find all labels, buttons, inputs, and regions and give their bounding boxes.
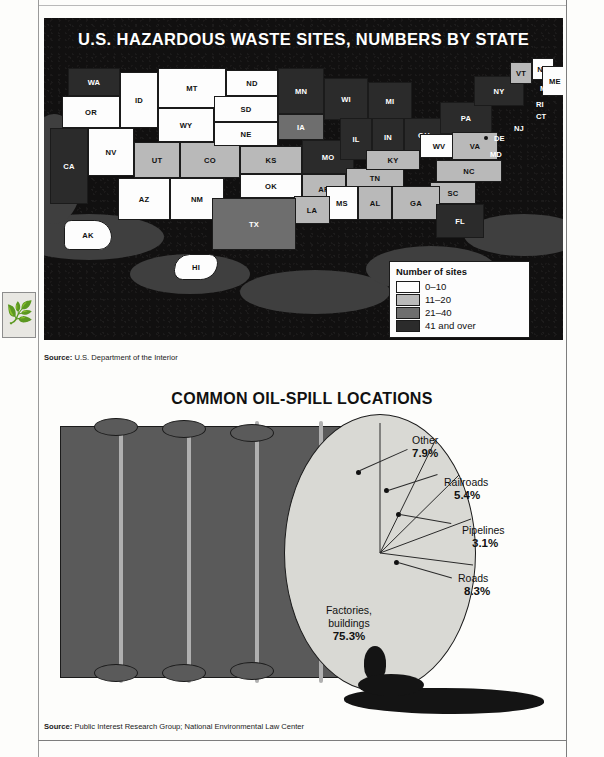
page-rule-right: [566, 0, 567, 757]
state-LA[interactable]: LA: [294, 196, 330, 224]
callout-other: Other 7.9%: [412, 434, 438, 460]
state-label-CT: CT: [536, 112, 546, 121]
drum-bulge: [162, 664, 206, 682]
state-PA[interactable]: PA: [440, 102, 492, 134]
state-label: NC: [437, 167, 501, 176]
state-label: VT: [511, 69, 531, 78]
legend-item-11-20[interactable]: 11–20: [396, 293, 524, 306]
state-NC[interactable]: NC: [436, 160, 502, 182]
legend-swatch: [396, 281, 420, 293]
callout-factories-name-2: buildings: [306, 617, 392, 630]
callout-pipelines-pct: 3.1%: [472, 537, 505, 550]
state-NV[interactable]: NV: [88, 128, 134, 176]
state-TX[interactable]: TX: [212, 198, 296, 250]
state-VT[interactable]: VT: [510, 62, 532, 84]
state-label-MD: MD: [490, 150, 502, 159]
state-label: MS: [327, 199, 357, 208]
state-SD[interactable]: SD: [214, 96, 278, 122]
map-legend: Number of sites 0–10 11–20 21–40 41 and …: [389, 261, 530, 338]
page-canvas: 🌿 U.S. HAZARDOUS WASTE SITES, NUMBERS BY…: [0, 0, 604, 757]
state-dot-RI[interactable]: [526, 102, 530, 106]
state-dot-CT[interactable]: [516, 108, 520, 112]
state-label: IN: [373, 133, 403, 142]
state-label: GA: [393, 199, 439, 208]
state-label: LA: [295, 206, 329, 215]
state-OK[interactable]: OK: [240, 174, 302, 198]
state-ND[interactable]: ND: [226, 70, 278, 96]
state-WY[interactable]: WY: [158, 108, 214, 142]
state-IA[interactable]: IA: [278, 114, 324, 140]
legend-item-0-10[interactable]: 0–10: [396, 280, 524, 293]
state-HI[interactable]: HI: [174, 254, 218, 280]
state-label: WA: [69, 78, 119, 87]
state-label: TX: [213, 220, 295, 229]
drum-bulge: [162, 420, 206, 438]
state-label: ID: [121, 96, 157, 105]
drum-bulge: [230, 424, 274, 442]
state-label: TN: [347, 174, 403, 183]
pie-source: Source: Public Interest Research Group; …: [44, 722, 304, 731]
state-TN[interactable]: TN: [346, 168, 404, 188]
drum-bulge: [230, 662, 274, 680]
drum-rib: [187, 421, 191, 683]
legend-item-41-over[interactable]: 41 and over: [396, 319, 524, 332]
state-MN[interactable]: MN: [278, 68, 324, 114]
state-AK[interactable]: AK: [64, 220, 112, 250]
state-AZ[interactable]: AZ: [118, 178, 170, 220]
callout-railroads-pct: 5.4%: [454, 489, 488, 502]
state-MS[interactable]: MS: [326, 186, 358, 220]
state-label: SD: [215, 105, 277, 114]
legend-item-21-40[interactable]: 21–40: [396, 306, 524, 319]
state-UT[interactable]: UT: [134, 142, 180, 178]
state-label-DE: DE: [494, 134, 505, 143]
state-label: OR: [63, 108, 119, 117]
drum-rib: [119, 421, 123, 683]
state-label: WY: [159, 121, 213, 130]
map-title: U.S. HAZARDOUS WASTE SITES, NUMBERS BY S…: [44, 30, 563, 49]
state-WI[interactable]: WI: [324, 78, 368, 120]
state-MI[interactable]: MI: [368, 82, 412, 120]
state-dot-DE[interactable]: [492, 128, 496, 132]
state-OR[interactable]: OR: [62, 96, 120, 128]
state-WA[interactable]: WA: [68, 68, 120, 96]
state-label: UT: [135, 156, 179, 165]
margin-decoration: 🌿: [2, 292, 36, 338]
state-label: NV: [89, 148, 133, 157]
state-label: MI: [369, 97, 411, 106]
state-label: CO: [181, 156, 239, 165]
state-FL[interactable]: FL: [436, 204, 484, 238]
legend-title: Number of sites: [396, 266, 524, 277]
state-label: NE: [215, 130, 277, 139]
state-label: AL: [359, 199, 391, 208]
state-dot-MA[interactable]: [528, 92, 532, 96]
state-KY[interactable]: KY: [366, 150, 420, 170]
state-NE[interactable]: NE: [214, 122, 278, 146]
state-label: IA: [279, 123, 323, 132]
callout-railroads: Railroads 5.4%: [444, 476, 488, 502]
state-CO[interactable]: CO: [180, 142, 240, 178]
legend-swatch: [396, 294, 420, 306]
state-label: AK: [65, 231, 111, 240]
page-rule-left: [38, 0, 39, 757]
callout-roads-pct: 8.3%: [464, 585, 490, 598]
state-KS[interactable]: KS: [240, 146, 302, 174]
state-label: WI: [325, 95, 367, 104]
state-CA[interactable]: CA: [50, 128, 88, 204]
callout-railroads-name: Railroads: [444, 476, 488, 489]
state-GA[interactable]: GA: [392, 186, 440, 220]
state-label-RI: RI: [536, 100, 544, 109]
state-label: KS: [241, 156, 301, 165]
hazardous-waste-map: U.S. HAZARDOUS WASTE SITES, NUMBERS BY S…: [44, 18, 563, 340]
map-source-text: U.S. Department of the Interior: [74, 353, 177, 362]
state-ID[interactable]: ID: [120, 72, 158, 128]
state-dot-NJ[interactable]: [496, 120, 500, 124]
state-label: ND: [227, 79, 277, 88]
state-dot-MD[interactable]: [484, 136, 488, 140]
oil-puddle: [358, 674, 424, 696]
state-AL[interactable]: AL: [358, 186, 392, 220]
state-label: CA: [51, 162, 87, 171]
drum-bulge: [94, 664, 138, 682]
callout-factories: Factories, buildings 75.3%: [306, 604, 392, 643]
map-source: Source: U.S. Department of the Interior: [44, 353, 178, 362]
callout-other-pct: 7.9%: [412, 447, 438, 460]
